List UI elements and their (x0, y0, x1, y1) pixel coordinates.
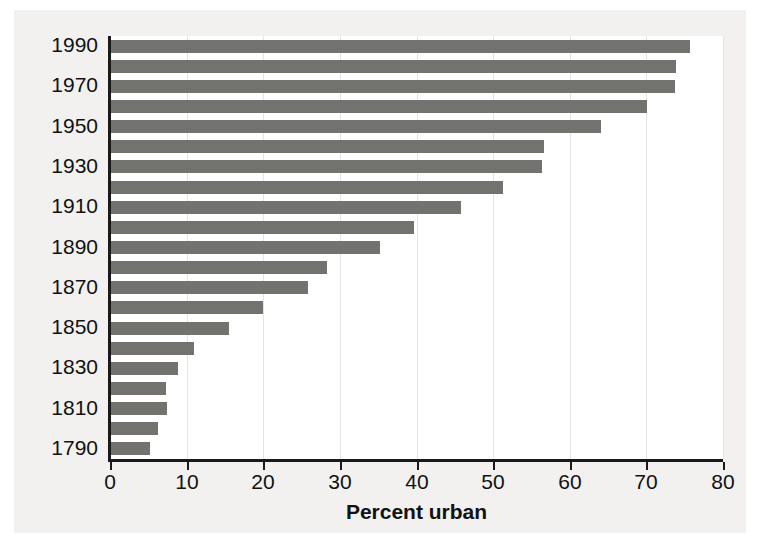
y-tick-label-1810: 1810 (8, 396, 108, 420)
x-tick-label-60: 60 (540, 470, 600, 494)
y-tick-label-1830: 1830 (8, 355, 108, 379)
bar-1890 (111, 241, 380, 254)
y-tick-label-1930: 1930 (8, 154, 108, 178)
x-tick-label-20: 20 (233, 470, 293, 494)
x-tick-label-50: 50 (463, 470, 523, 494)
x-tick-mark-60 (570, 462, 572, 470)
x-axis (108, 459, 723, 462)
x-axis-title: Percent urban (110, 500, 723, 524)
x-tick-mark-80 (723, 462, 725, 470)
bar-1940 (111, 140, 544, 153)
x-tick-label-40: 40 (387, 470, 447, 494)
bar-1910 (111, 201, 461, 214)
bar-1980 (111, 60, 676, 73)
bar-1930 (111, 160, 542, 173)
x-tick-mark-10 (187, 462, 189, 470)
bar-1970 (111, 80, 675, 93)
y-tick-label-1890: 1890 (8, 235, 108, 259)
y-axis (108, 36, 111, 462)
bar-1830 (111, 362, 178, 375)
x-tick-mark-70 (646, 462, 648, 470)
bar-1920 (111, 181, 503, 194)
bar-1990 (111, 40, 690, 53)
x-tick-mark-30 (340, 462, 342, 470)
bar-1900 (111, 221, 414, 234)
x-tick-mark-50 (493, 462, 495, 470)
x-tick-label-80: 80 (693, 470, 753, 494)
y-tick-label-1790: 1790 (8, 436, 108, 460)
x-tick-label-30: 30 (310, 470, 370, 494)
y-tick-label-1870: 1870 (8, 275, 108, 299)
bar-1850 (111, 322, 229, 335)
bar-1960 (111, 100, 647, 113)
y-tick-label-1970: 1970 (8, 73, 108, 97)
y-axis-labels: 1990197019501930191018901870185018301810… (0, 0, 108, 552)
bar-1790 (111, 442, 150, 455)
gridline-80 (723, 36, 724, 459)
y-tick-label-1950: 1950 (8, 114, 108, 138)
bar-1810 (111, 402, 167, 415)
x-tick-mark-40 (417, 462, 419, 470)
bar-1950 (111, 120, 601, 133)
x-tick-label-10: 10 (157, 470, 217, 494)
x-tick-label-70: 70 (616, 470, 676, 494)
bar-1820 (111, 382, 166, 395)
x-tick-mark-20 (263, 462, 265, 470)
bar-1870 (111, 281, 308, 294)
bar-1880 (111, 261, 327, 274)
bar-1800 (111, 422, 158, 435)
y-tick-label-1850: 1850 (8, 315, 108, 339)
bar-1860 (111, 301, 263, 314)
bar-1840 (111, 342, 194, 355)
x-tick-mark-0 (110, 462, 112, 470)
chart-figure: 01020304050607080 1990197019501930191018… (0, 0, 760, 552)
y-tick-label-1990: 1990 (8, 33, 108, 57)
y-tick-label-1910: 1910 (8, 194, 108, 218)
